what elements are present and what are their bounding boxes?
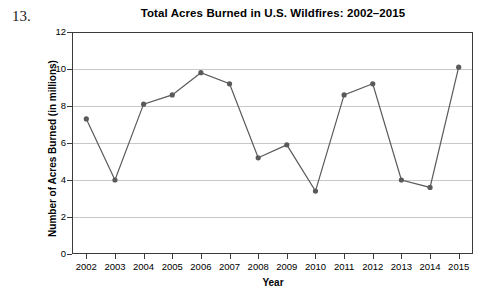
x-axis-title: Year bbox=[72, 277, 474, 288]
data-point-marker bbox=[313, 189, 318, 194]
data-point-marker bbox=[227, 81, 232, 86]
data-point-marker bbox=[399, 177, 404, 182]
series-line bbox=[86, 67, 458, 191]
data-point-marker bbox=[256, 155, 261, 160]
data-point-marker bbox=[427, 185, 432, 190]
data-point-marker bbox=[370, 81, 375, 86]
line-series bbox=[0, 0, 491, 299]
data-point-marker bbox=[84, 116, 89, 121]
data-point-marker bbox=[112, 177, 117, 182]
data-point-marker bbox=[284, 142, 289, 147]
data-point-marker bbox=[456, 65, 461, 70]
data-point-marker bbox=[342, 92, 347, 97]
data-point-marker bbox=[198, 70, 203, 75]
data-point-marker bbox=[170, 92, 175, 97]
data-point-marker bbox=[141, 102, 146, 107]
